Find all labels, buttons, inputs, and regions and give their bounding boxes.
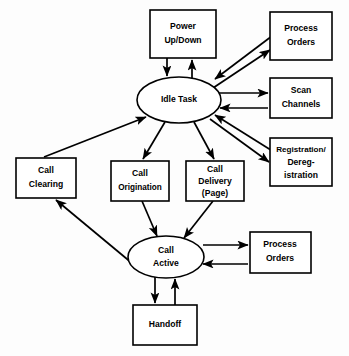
state-scan-channels[interactable]: Scan Channels <box>270 78 332 118</box>
transition-idle-task-to-registration <box>210 119 269 162</box>
diagram-canvas: Power Up/Down Process Orders Scan Channe… <box>0 0 349 356</box>
transition-idle-task-to-call-delivery <box>194 122 214 159</box>
state-call-delivery-label-line-1: Call <box>207 164 223 174</box>
state-call-delivery-label-line-3: (Page) <box>202 188 228 198</box>
state-scan-channels-box[interactable] <box>270 78 332 118</box>
state-call-origination[interactable]: Call Origination <box>111 161 169 201</box>
state-process-orders-idle-box[interactable] <box>270 12 332 60</box>
state-call-delivery-label-line-2: Delivery <box>198 176 232 186</box>
state-call-active-label-line-2: Active <box>153 258 179 268</box>
state-process-orders-idle-label-line-2: Orders <box>287 37 315 47</box>
state-idle-task-label: Idle Task <box>161 94 197 104</box>
transition-idle-task-to-process-orders <box>213 50 270 88</box>
transition-call-clearing-to-idle-task <box>44 117 146 157</box>
state-call-clearing[interactable]: Call Clearing <box>16 158 76 198</box>
state-idle-task[interactable]: Idle Task <box>137 77 221 123</box>
state-call-origination-box[interactable] <box>111 161 169 201</box>
state-power-up-down-label-line-1: Power <box>170 21 196 31</box>
state-power-up-down-label-line-2: Up/Down <box>164 35 201 45</box>
state-call-active[interactable]: Call Active <box>128 236 204 278</box>
state-process-orders-idle-label-line-1: Process <box>284 23 318 33</box>
state-power-up-down[interactable]: Power Up/Down <box>150 10 216 58</box>
transition-registration-to-idle-task <box>215 115 274 152</box>
state-scan-channels-label-line-1: Scan <box>291 85 312 95</box>
state-registration-label-line-3: istration <box>284 170 318 180</box>
state-registration-label-line-1: Registration/ <box>276 145 326 154</box>
transition-call-delivery-to-call-active <box>184 201 213 238</box>
state-process-orders-active[interactable]: Process Orders <box>250 232 311 273</box>
state-call-origination-label-line-1: Call <box>132 168 148 178</box>
state-call-origination-label-line-2: Origination <box>118 183 162 192</box>
state-call-clearing-box[interactable] <box>16 158 76 198</box>
state-scan-channels-label-line-2: Channels <box>282 99 321 109</box>
state-registration[interactable]: Registration/ Dereg- istration <box>270 138 332 186</box>
state-call-active-label-line-1: Call <box>158 245 174 255</box>
state-call-clearing-label-line-2: Clearing <box>29 179 63 189</box>
state-call-clearing-label-line-1: Call <box>38 165 54 175</box>
state-process-orders-idle[interactable]: Process Orders <box>270 12 332 60</box>
transition-call-origination-to-call-active <box>142 201 157 236</box>
state-diagram: Power Up/Down Process Orders Scan Channe… <box>0 0 349 356</box>
transition-process-orders-to-idle-task <box>215 36 272 79</box>
state-process-orders-active-label-line-1: Process <box>263 239 297 249</box>
state-call-delivery[interactable]: Call Delivery (Page) <box>186 161 244 201</box>
state-registration-label-line-2: Dereg- <box>287 157 314 167</box>
state-call-active-ellipse[interactable] <box>128 236 204 278</box>
transition-idle-task-to-call-origination <box>143 122 165 159</box>
state-power-up-down-box[interactable] <box>150 10 216 58</box>
state-process-orders-active-label-line-2: Orders <box>266 253 294 263</box>
transition-call-active-to-call-clearing <box>56 200 133 264</box>
state-handoff-label: Handoff <box>149 319 182 329</box>
states-layer: Power Up/Down Process Orders Scan Channe… <box>16 10 332 345</box>
state-handoff[interactable]: Handoff <box>133 305 197 345</box>
